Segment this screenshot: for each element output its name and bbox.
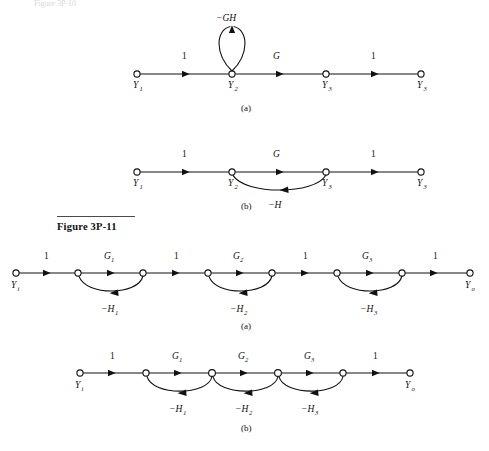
branch-gain-label: 1 [371, 149, 376, 159]
node-label-sub: 3 [328, 85, 333, 92]
panel-label: (a) [241, 321, 251, 331]
feedback-gain-label: −H [268, 200, 282, 210]
graph-node-input [77, 370, 83, 376]
self-loop-arc-left [219, 27, 232, 72]
feedback-gain-label: −H [101, 304, 115, 314]
branch-arrowhead [276, 169, 284, 175]
feedback-gain-sub: 2 [249, 409, 253, 416]
branch-gain-label: G [304, 351, 311, 361]
graph-node [140, 270, 146, 276]
branch-arrowhead [430, 270, 438, 276]
graph-node [205, 270, 211, 276]
graph-node [229, 71, 235, 77]
branch-gain-label: G [273, 51, 280, 61]
panel-label: (a) [241, 103, 251, 113]
branch-arrowhead [107, 270, 115, 276]
feedback-arc [209, 276, 272, 291]
graph-node [323, 169, 329, 175]
branch-gain-label: G [238, 351, 245, 361]
branch-arrowhead [182, 71, 190, 77]
node-label-sub: 3 [423, 85, 428, 92]
branch-arrowhead [372, 370, 380, 376]
self-loop-arc-right [232, 27, 245, 72]
feedback-arc [279, 377, 343, 392]
branch-gain-label: 1 [110, 351, 115, 361]
branch-gain-sub: 3 [368, 256, 373, 263]
branch-gain-label: 1 [182, 149, 187, 159]
node-label-sub: 3 [423, 183, 428, 190]
node-label-output-sub: o [472, 285, 476, 292]
page-canvas: Figure 3P-10 Figure 3P-11 [0, 0, 489, 451]
node-label-output-sub: o [412, 385, 416, 392]
node-label-sub: 3 [328, 183, 333, 190]
feedback-gain-label: −H [230, 304, 244, 314]
feedback-arc [233, 175, 326, 190]
graph-node [75, 270, 81, 276]
graph-node [399, 270, 405, 276]
branch-arrowhead [182, 169, 190, 175]
node-label-sub: 1 [140, 85, 143, 92]
branch-gain-label: 1 [182, 51, 187, 61]
panel-label: (b) [241, 423, 252, 433]
graph-node [269, 270, 275, 276]
branch-arrowhead [366, 270, 374, 276]
branch-arrowhead [43, 270, 51, 276]
graph-node-output [467, 270, 473, 276]
signal-flow-graphs: Y 1 Y 2 Y 3 Y 3 1 G 1 −GH (a) [0, 0, 489, 451]
feedback-arrowhead [280, 187, 289, 194]
node-label-sub: 2 [235, 85, 239, 92]
branch-gain-label: G [104, 251, 111, 261]
branch-gain-label: G [362, 251, 369, 261]
node-label-sub: 2 [235, 183, 239, 190]
feedback-gain-sub: 1 [183, 409, 186, 416]
branch-arrowhead [108, 370, 116, 376]
feedback-arc [147, 376, 212, 391]
feedback-arrowhead [244, 390, 253, 397]
panel-label: (b) [241, 201, 252, 211]
fig-3p-11-panel-a: Y i Y o 1 G 1 1 G 2 1 G 3 1 −H 1 −H 2 −H… [11, 251, 476, 331]
feedback-gain-sub: 3 [373, 309, 378, 316]
feedback-arc [213, 377, 278, 392]
fig-3p-10-panel-a: Y 1 Y 2 Y 3 Y 3 1 G 1 −GH (a) [133, 13, 428, 113]
branch-gain-sub: 2 [245, 356, 249, 363]
graph-node [334, 270, 340, 276]
feedback-gain-label: −H [301, 404, 315, 414]
branch-gain-sub: 3 [310, 356, 315, 363]
feedback-arc [79, 276, 143, 291]
feedback-gain-sub: 1 [115, 309, 118, 316]
branch-gain-label: G [273, 149, 280, 159]
graph-node [418, 71, 424, 77]
self-loop-gain-label: −GH [216, 13, 237, 23]
branch-arrowhead [371, 71, 379, 77]
node-label-input-sub: i [18, 285, 20, 292]
graph-node [418, 169, 424, 175]
graph-node [229, 169, 235, 175]
feedback-arrowhead [178, 390, 187, 397]
branch-gain-label: 1 [433, 251, 438, 261]
feedback-gain-sub: 3 [314, 409, 319, 416]
branch-gain-label: 1 [373, 351, 378, 361]
feedback-gain-label: −H [169, 404, 183, 414]
graph-node [209, 370, 216, 377]
fig-3p-11-panel-b: Y i Y o 1 G 1 G 2 G 3 1 −H 1 −H 2 −H 3 (… [75, 351, 416, 433]
branch-gain-label: 1 [303, 251, 308, 261]
node-label-input-sub: i [82, 385, 84, 392]
branch-gain-sub: 2 [240, 256, 244, 263]
graph-node-output [407, 370, 413, 376]
fig-3p-10-panel-b: Y 1 Y 2 Y 3 Y 3 1 G 1 −H (b) [133, 149, 428, 211]
feedback-arrowhead [310, 390, 319, 397]
branch-arrowhead [276, 71, 284, 77]
feedback-gain-label: −H [360, 304, 374, 314]
branch-gain-sub: 1 [111, 256, 114, 263]
branch-arrowhead [306, 370, 314, 376]
branch-gain-label: 1 [44, 251, 49, 261]
branch-gain-sub: 1 [179, 356, 182, 363]
graph-node [134, 169, 140, 175]
branch-arrowhead [172, 270, 180, 276]
feedback-gain-label: −H [235, 404, 249, 414]
branch-arrowhead [236, 270, 244, 276]
node-label-sub: 1 [140, 183, 143, 190]
branch-arrowhead [371, 169, 379, 175]
graph-node-input [13, 270, 19, 276]
feedback-gain-sub: 2 [244, 309, 248, 316]
